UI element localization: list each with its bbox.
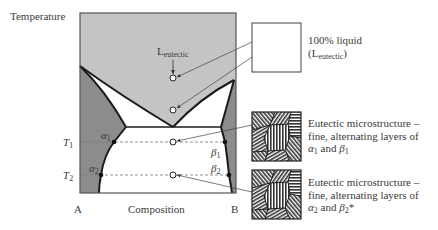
alpha1-label: α1 — [101, 129, 111, 145]
x-right-label: B — [231, 203, 238, 215]
t2-label: T2 — [63, 169, 73, 185]
beta2-point — [227, 173, 232, 178]
state-point-4 — [170, 172, 176, 178]
micro2-description: Eutectic microstructure – fine, alternat… — [308, 176, 419, 218]
eutectic-micrograph-1 — [252, 112, 301, 161]
state-point-1 — [170, 75, 176, 81]
eutectic-micrograph-2 — [252, 170, 301, 219]
beta2-label: β2 — [211, 162, 220, 178]
y-axis-label: Temperature — [10, 10, 65, 22]
state-point-3 — [170, 139, 176, 145]
alpha2-label: α2 — [89, 162, 99, 178]
state-point-2 — [170, 107, 176, 113]
x-axis-label: Composition — [128, 203, 185, 215]
beta1-label: β1 — [211, 146, 220, 162]
l-eutectic-label: Leutectic — [157, 45, 189, 61]
liquid-description: 100% liquid (Leutectic) — [308, 34, 362, 63]
x-left-label: A — [74, 203, 82, 215]
liquid-micrograph-box — [252, 23, 301, 72]
alpha1-point — [112, 140, 117, 145]
t1-label: T1 — [63, 136, 73, 152]
beta1-point — [223, 140, 228, 145]
micro1-description: Eutectic microstructure – fine, alternat… — [308, 117, 419, 159]
alpha2-point — [99, 173, 104, 178]
